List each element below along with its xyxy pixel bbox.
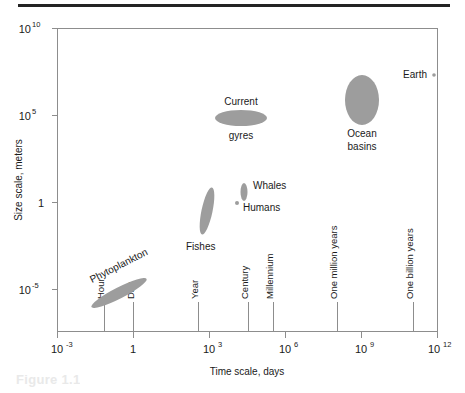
x-axis-title: Time scale, days — [210, 366, 285, 377]
earth-label: Earth — [403, 69, 427, 80]
current-gyres-label-line1: Current — [224, 96, 258, 107]
whales-ellipse[interactable] — [241, 183, 248, 201]
data-blob-phytoplankton[interactable]: Phytoplankton — [88, 246, 149, 312]
y-tick-label-2: 1 — [38, 197, 44, 209]
x-axis-tick-labels: 10 -3 1 10 3 10 6 10 9 10 12 — [51, 340, 451, 355]
x-tick-exponent-3: 6 — [294, 340, 298, 349]
fishes-ellipse[interactable] — [197, 186, 218, 235]
time-marker-label-millennium: Millennium — [264, 254, 275, 299]
figure-container: 10 10 10 5 1 10 -5 Size scale, meters 10… — [0, 0, 465, 393]
y-tick-label-0: 10 — [19, 23, 31, 35]
current-gyres-label-line2: gyres — [229, 130, 253, 141]
y-axis-title-text: Size scale, meters — [13, 139, 24, 221]
x-axis-ticks — [58, 332, 438, 339]
time-marker-label-one-million-years: One million years — [328, 225, 339, 299]
x-tick-label-4: 10 — [355, 343, 367, 355]
x-tick-exponent-0: -3 — [66, 340, 73, 349]
data-blob-whales[interactable]: Whales — [241, 180, 287, 201]
x-tick-label-0: 10 — [51, 343, 63, 355]
data-blob-ocean-basins[interactable]: Ocean basins — [345, 75, 379, 152]
humans-label: Humans — [243, 202, 280, 213]
y-tick-label-3: 10 — [19, 284, 31, 296]
x-tick-label-2: 10 — [203, 343, 215, 355]
time-marker-label-year: Year — [189, 280, 200, 299]
y-axis-ticks — [52, 29, 58, 290]
ocean-basins-label-line2: basins — [348, 141, 377, 152]
data-blob-current-gyres[interactable]: Current gyres — [215, 96, 267, 141]
time-marker-one-million-years: One million years — [328, 225, 339, 331]
whales-label: Whales — [253, 180, 286, 191]
time-marker-year: Year — [189, 280, 200, 332]
current-gyres-ellipse[interactable] — [215, 110, 267, 126]
ocean-basins-ellipse[interactable] — [345, 75, 379, 125]
time-marker-label-one-billion-years: One billion years — [404, 228, 415, 299]
x-tick-exponent-5: 12 — [443, 340, 451, 349]
time-marker-label-century: Century — [239, 265, 250, 299]
y-tick-exponent-3: -5 — [32, 281, 39, 290]
time-marker-millennium: Millennium — [264, 254, 275, 332]
x-tick-exponent-2: 3 — [218, 340, 222, 349]
x-tick-label-5: 10 — [428, 343, 440, 355]
x-tick-exponent-4: 9 — [370, 340, 374, 349]
y-tick-exponent-0: 10 — [32, 20, 40, 29]
fishes-label: Fishes — [186, 241, 215, 252]
data-blob-fishes[interactable]: Fishes — [186, 186, 217, 252]
scatter-plot-canvas: 10 10 10 5 1 10 -5 Size scale, meters 10… — [0, 0, 465, 393]
time-marker-century: Century — [239, 265, 250, 331]
y-tick-label-1: 10 — [19, 110, 31, 122]
data-blob-earth[interactable]: Earth — [403, 69, 436, 80]
ocean-basins-label-line1: Ocean — [347, 128, 376, 139]
x-tick-label-3: 10 — [279, 343, 291, 355]
x-axis-title-text: Time scale, days — [210, 366, 285, 377]
time-marker-one-billion-years: One billion years — [404, 228, 415, 332]
data-blob-humans[interactable]: Humans — [235, 201, 280, 213]
y-axis-title: Size scale, meters — [13, 139, 24, 221]
y-tick-exponent-1: 5 — [32, 107, 36, 116]
x-tick-label-1: 1 — [130, 343, 136, 355]
earth-point[interactable] — [432, 73, 436, 77]
humans-point[interactable] — [235, 201, 239, 205]
figure-caption: Figure 1.1 — [16, 372, 80, 393]
